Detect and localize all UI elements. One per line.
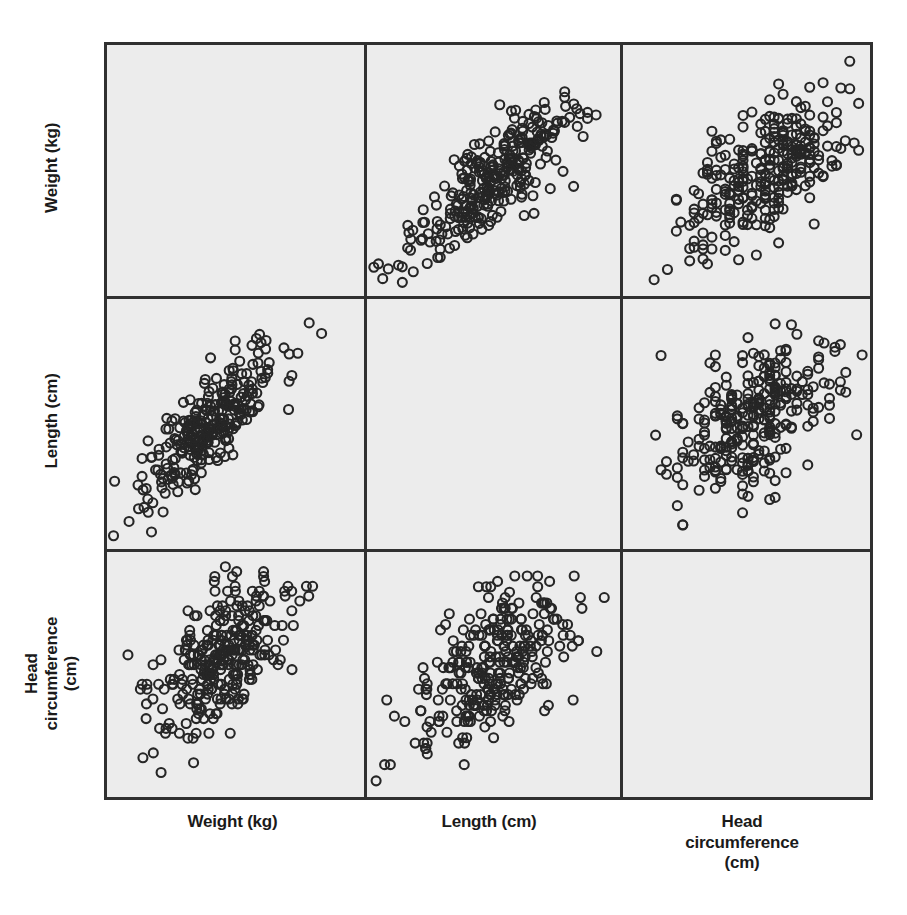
row-axis-label-group: Weight (kg) Length (cm) Headcircumferenc… — [0, 42, 104, 800]
panel-length-weight[interactable] — [364, 45, 620, 296]
panel-weight-length[interactable] — [107, 296, 364, 549]
panel-matrix — [104, 42, 873, 800]
panel-length-length[interactable] — [364, 296, 620, 549]
panel-head-length[interactable] — [620, 296, 870, 549]
column-axis-label-length: Length (cm) — [361, 806, 617, 906]
row-axis-label-length-text: Length (cm) — [42, 373, 62, 468]
panel-head-head[interactable] — [620, 549, 870, 797]
scatter-layer — [623, 45, 870, 296]
row-axis-label-length: Length (cm) — [0, 295, 104, 547]
row-axis-label-head-circumference: Headcircumference (cm) — [0, 548, 104, 800]
scatter-layer — [623, 299, 870, 549]
scatter-layer — [367, 45, 620, 296]
panel-weight-head[interactable] — [107, 549, 364, 797]
column-axis-label-weight: Weight (kg) — [104, 806, 361, 906]
row-axis-label-weight: Weight (kg) — [0, 42, 104, 294]
row-axis-label-head-circumference-text: Headcircumference (cm) — [22, 617, 81, 731]
column-axis-label-group: Weight (kg) Length (cm) Headcircumferenc… — [104, 806, 873, 906]
scatter-layer — [107, 552, 364, 797]
column-axis-label-head-circumference: Headcircumference(cm) — [617, 806, 867, 906]
panel-head-weight[interactable] — [620, 45, 870, 296]
scatter-layer — [367, 552, 620, 797]
row-axis-label-weight-text: Weight (kg) — [42, 123, 62, 213]
scatter-plot-matrix-figure: Weight (kg) Length (cm) Headcircumferenc… — [0, 0, 907, 915]
panel-length-head[interactable] — [364, 549, 620, 797]
panel-weight-weight[interactable] — [107, 45, 364, 296]
scatter-layer — [107, 299, 364, 549]
